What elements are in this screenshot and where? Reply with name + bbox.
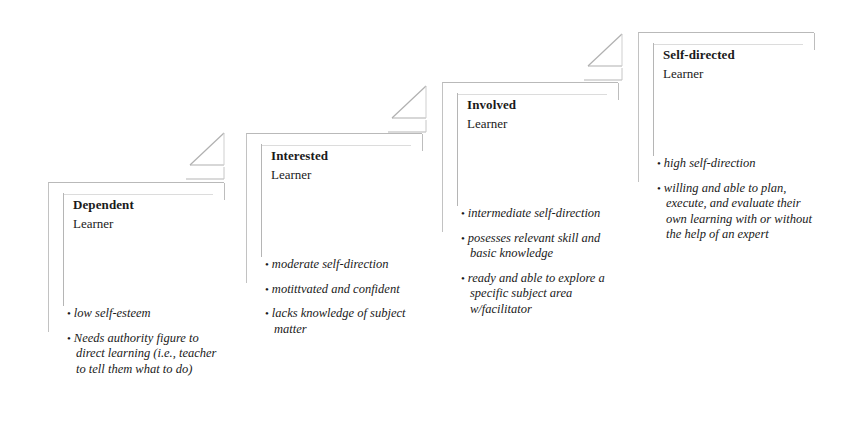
stage-title: Dependent <box>73 195 221 214</box>
stage-bullet-text: posesses relevant skill and basic knowle… <box>468 231 601 261</box>
bullet-dot-icon: • <box>461 272 468 284</box>
stage-bullet-text: low self-esteem <box>74 306 151 320</box>
stage-heading: Self-directed Learner <box>663 45 811 83</box>
step-up-arrow-1 <box>186 131 242 187</box>
stage-heading: Dependent Learner <box>73 195 221 233</box>
stage-bullet-item: •intermediate self-direction <box>461 206 617 222</box>
stage-bullet-item: •ready and able to explore a specific su… <box>461 271 617 318</box>
step-up-arrow-3 <box>584 32 640 88</box>
bullet-dot-icon: • <box>461 207 468 219</box>
bullet-dot-icon: • <box>265 283 272 295</box>
stage-bullet-text: willing and able to plan, execute, and e… <box>664 181 812 242</box>
stage-subtitle: Learner <box>467 114 615 133</box>
stage-bullet-list: •intermediate self-direction •posesses r… <box>461 206 617 317</box>
stage-subtitle: Learner <box>73 214 221 233</box>
stage-subtitle: Learner <box>663 64 811 83</box>
bullet-dot-icon: • <box>461 232 468 244</box>
stage-bullet-list: •low self-esteem •Needs authority figure… <box>67 306 223 377</box>
stage-bullet-text: lacks knowledge of subject matter <box>272 306 406 336</box>
bullet-dot-icon: • <box>265 307 272 319</box>
stage-bullet-item: •motittvated and confident <box>265 282 421 298</box>
stage-bullet-list: •high self-direction •willing and able t… <box>657 156 813 243</box>
bullet-dot-icon: • <box>657 182 664 194</box>
stage-title: Self-directed <box>663 45 811 64</box>
stage-heading: Interested Learner <box>271 146 419 184</box>
stage-title: Interested <box>271 146 419 165</box>
stage-bullet-item: •moderate self-direction <box>265 257 421 273</box>
stage-heading: Involved Learner <box>467 95 615 133</box>
stage-title: Involved <box>467 95 615 114</box>
stage-inner-rule <box>457 93 458 206</box>
stage-bullet-text: Needs authority figure to direct learnin… <box>74 331 217 376</box>
bullet-dot-icon: • <box>265 258 272 270</box>
stage-bullet-item: •posesses relevant skill and basic knowl… <box>461 231 617 262</box>
stage-inner-rule <box>63 193 64 306</box>
stage-bullet-text: intermediate self-direction <box>468 206 601 220</box>
bullet-dot-icon: • <box>657 157 664 169</box>
bullet-dot-icon: • <box>67 307 74 319</box>
stage-bullet-text: ready and able to explore a specific sub… <box>468 271 605 316</box>
stage-bullet-item: •willing and able to plan, execute, and … <box>657 181 813 243</box>
stage-bullet-list: •moderate self-direction •motittvated an… <box>265 257 421 337</box>
stage-bullet-text: high self-direction <box>664 156 756 170</box>
bullet-dot-icon: • <box>67 332 74 344</box>
stage-bullet-item: •high self-direction <box>657 156 813 172</box>
step-up-arrow-2 <box>388 84 444 140</box>
stage-subtitle: Learner <box>271 165 419 184</box>
stage-inner-rule <box>653 43 654 156</box>
stage-bullet-item: •Needs authority figure to direct learni… <box>67 331 223 378</box>
stage-bullet-text: moderate self-direction <box>272 257 389 271</box>
stage-bullet-item: •lacks knowledge of subject matter <box>265 306 421 337</box>
stage-inner-rule <box>261 144 262 257</box>
stage-bullet-text: motittvated and confident <box>272 282 400 296</box>
stage-bullet-item: •low self-esteem <box>67 306 223 322</box>
learning-stages-diagram: Dependent Learner •low self-esteem •Need… <box>0 0 858 439</box>
